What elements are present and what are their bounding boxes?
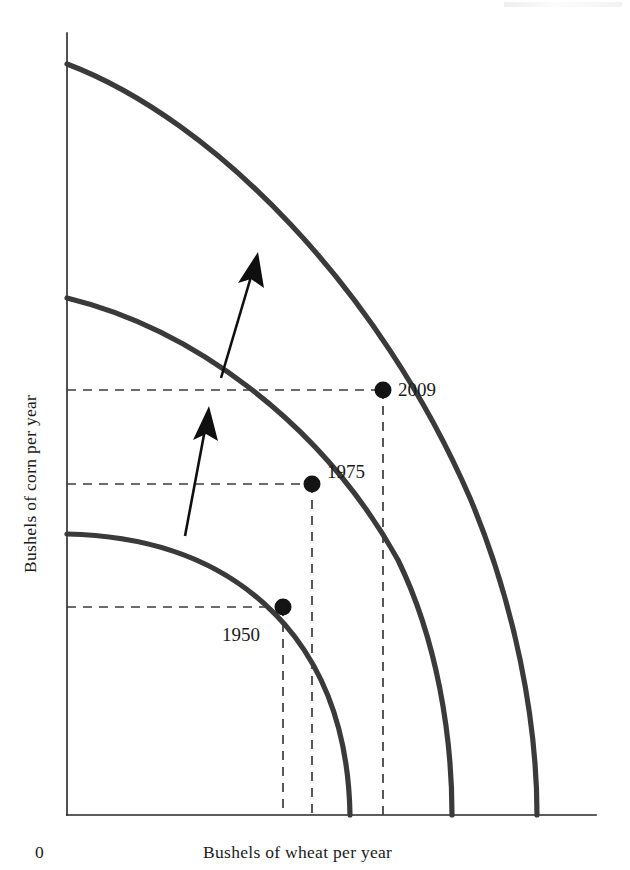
data-points-group bbox=[275, 382, 392, 616]
ppf-curve-2009 bbox=[67, 64, 537, 815]
arrow-1975-to-2009-head bbox=[238, 252, 264, 288]
arrow-1950-to-1975-shaft bbox=[185, 424, 206, 536]
data-point-label-1950: 1950 bbox=[222, 624, 260, 645]
ppf-curve-1950 bbox=[67, 534, 350, 815]
data-point-label-1975: 1975 bbox=[327, 461, 365, 482]
data-point-1950[interactable] bbox=[275, 599, 292, 616]
origin-label: 0 bbox=[35, 842, 44, 862]
arrow-1975-to-2009-shaft bbox=[221, 270, 253, 378]
data-point-label-2009: 2009 bbox=[398, 379, 436, 400]
ppf-curve-1975 bbox=[67, 298, 452, 815]
x-axis-label: Bushels of wheat per year bbox=[203, 842, 392, 862]
ppf-chart-canvas: 1950 1975 2009 Bushels of corn per year … bbox=[0, 0, 630, 870]
arrow-1950-to-1975-head bbox=[193, 406, 218, 441]
data-point-1975[interactable] bbox=[304, 476, 321, 493]
ppf-curves-group bbox=[67, 64, 537, 815]
guide-lines-group bbox=[67, 390, 383, 815]
ppf-figure: 1950 1975 2009 Bushels of corn per year … bbox=[0, 0, 630, 870]
data-point-2009[interactable] bbox=[375, 382, 392, 399]
shift-arrows-group bbox=[185, 252, 264, 536]
data-point-labels-group: 1950 1975 2009 bbox=[222, 379, 436, 645]
y-axis-label: Bushels of corn per year bbox=[20, 395, 40, 573]
